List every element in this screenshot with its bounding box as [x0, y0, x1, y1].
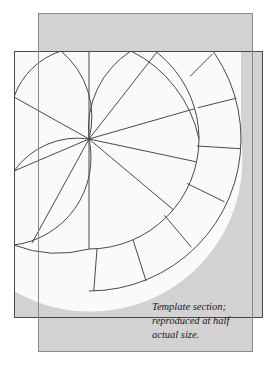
figure-page: Template section; reproduced at half act… [0, 0, 273, 371]
caption-line-1: Template section; [152, 301, 226, 312]
template-diagram: Template section; reproduced at half act… [0, 0, 273, 371]
caption-line-2: reproduced at half [152, 315, 231, 326]
caption-line-3: actual size. [152, 329, 199, 340]
